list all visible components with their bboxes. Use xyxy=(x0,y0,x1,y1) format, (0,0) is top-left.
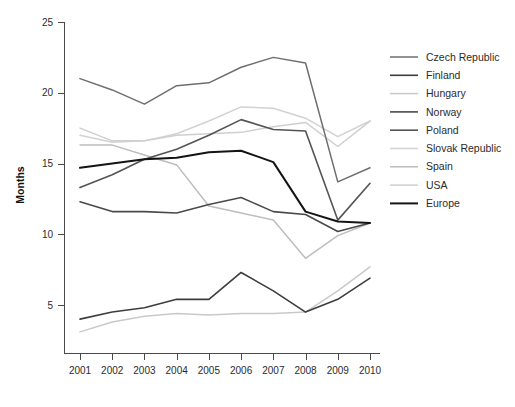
series-line-czech-republic xyxy=(80,57,370,182)
legend-label-norway: Norway xyxy=(426,106,462,118)
x-tick-label: 2003 xyxy=(133,365,156,376)
legend-label-poland: Poland xyxy=(426,124,459,136)
series-line-slovak-republic xyxy=(80,107,370,142)
x-tick-label: 2002 xyxy=(101,365,124,376)
y-tick-label: 15 xyxy=(42,158,54,169)
series-line-norway xyxy=(80,197,370,231)
x-tick-label: 2006 xyxy=(230,365,253,376)
series-line-hungary xyxy=(80,267,370,332)
x-tick-label: 2001 xyxy=(69,365,92,376)
y-axis-title: Months xyxy=(14,166,26,203)
x-tick-label: 2005 xyxy=(198,365,221,376)
legend-label-finland: Finland xyxy=(426,69,461,81)
line-chart: 510152025 200120022003200420052006200720… xyxy=(0,0,515,407)
chart-canvas: 510152025 200120022003200420052006200720… xyxy=(0,0,515,407)
y-tick-label: 10 xyxy=(42,229,54,240)
series-line-finland xyxy=(80,272,370,319)
series-line-poland xyxy=(80,120,370,220)
y-tick-label: 25 xyxy=(42,17,54,28)
chart-legend: Czech RepublicFinlandHungaryNorwayPoland… xyxy=(390,51,501,209)
legend-label-slovak-republic: Slovak Republic xyxy=(426,142,501,154)
x-tick-label: 2007 xyxy=(262,365,285,376)
x-axis-ticks: 2001200220032004200520062007200820092010 xyxy=(69,354,382,377)
x-tick-label: 2009 xyxy=(327,365,350,376)
y-axis-ticks: 510152025 xyxy=(42,17,65,311)
legend-label-spain: Spain xyxy=(426,160,453,172)
x-tick-label: 2010 xyxy=(359,365,382,376)
y-tick-label: 5 xyxy=(47,300,53,311)
legend-label-europe: Europe xyxy=(426,197,460,209)
x-tick-label: 2004 xyxy=(166,365,189,376)
legend-label-hungary: Hungary xyxy=(426,87,466,99)
axes xyxy=(65,22,381,354)
legend-label-usa: USA xyxy=(426,179,448,191)
series-lines xyxy=(80,57,370,332)
x-tick-label: 2008 xyxy=(294,365,317,376)
legend-label-czech-republic: Czech Republic xyxy=(426,51,500,63)
y-tick-label: 20 xyxy=(42,87,54,98)
